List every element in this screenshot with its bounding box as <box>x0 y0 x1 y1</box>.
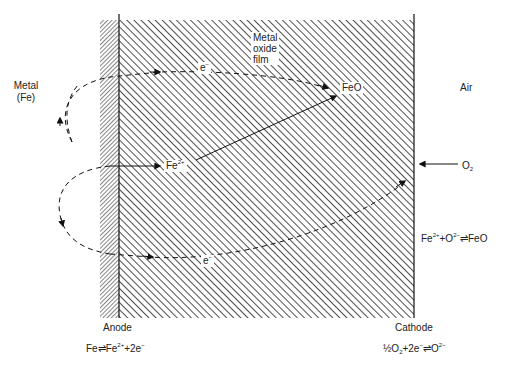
eq-part: +2e <box>402 343 419 354</box>
electron-label-top: e− <box>198 62 211 74</box>
fe2plus-charge: 2+ <box>178 159 185 165</box>
metal-label: Metal (Fe) <box>6 80 46 104</box>
eq-part: ½O <box>383 343 399 354</box>
oxide-film-label: Metal oxide film <box>251 32 279 65</box>
metal-label-line1: Metal <box>6 80 46 92</box>
fe2plus-base: Fe <box>166 160 178 171</box>
oxide-reaction-equation: Fe2++O2−⇌FeO <box>421 233 487 245</box>
eq-part: Fe <box>421 233 433 244</box>
oxide-label-line2: oxide <box>253 43 277 54</box>
anode-label: Anode <box>103 322 132 334</box>
oxide-label-line1: Metal <box>253 32 277 43</box>
eq-sup: 2− <box>453 232 460 238</box>
oxide-label-line3: film <box>253 54 277 65</box>
fe2plus-label: Fe2+ <box>164 160 187 172</box>
feo-label: FeO <box>340 82 363 94</box>
o2-sub: 2 <box>470 166 473 172</box>
eq-sup: − <box>141 342 145 348</box>
eq-sup: 2− <box>439 342 446 348</box>
eq-part: ⇌FeO <box>460 233 487 244</box>
o2-label: O2 <box>462 160 473 172</box>
electron-bottom-charge: − <box>209 254 213 260</box>
eq-part: Fe⇌Fe <box>86 343 117 354</box>
o2-base: O <box>462 160 470 171</box>
electron-label-bottom: e− <box>201 255 214 267</box>
eq-part: +O <box>440 233 454 244</box>
eq-sup: 2+ <box>433 232 440 238</box>
anode-reaction-equation: Fe⇌Fe2++2e− <box>86 343 145 355</box>
air-label: Air <box>460 82 472 94</box>
electron-top-charge: − <box>206 61 210 67</box>
cathode-reaction-equation: ½O2+2e−⇌O2− <box>383 343 446 355</box>
eq-part: +2e <box>124 343 141 354</box>
eq-part: ⇌O <box>423 343 439 354</box>
metal-label-line2: (Fe) <box>6 92 46 104</box>
metal-loop-arrow-down <box>61 218 63 226</box>
cathode-label: Cathode <box>395 322 433 334</box>
metal-region <box>100 20 119 318</box>
